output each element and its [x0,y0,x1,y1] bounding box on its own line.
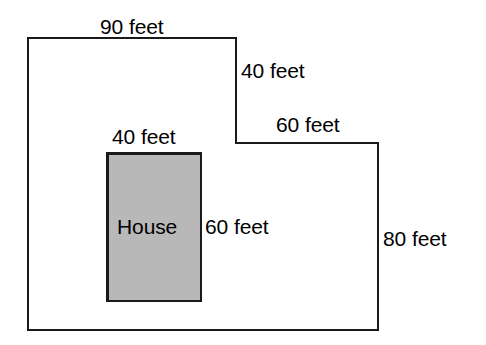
house-name-label: House [117,216,177,237]
yard-right-dimension-label: 80 feet [383,228,447,249]
yard-top-dimension-label: 90 feet [100,16,164,37]
yard-house-figure [0,0,486,345]
diagram-canvas: 90 feet 40 feet 60 feet 80 feet 40 feet … [0,0,486,345]
yard-step-dimension-label: 60 feet [276,114,340,135]
yard-outline-polygon [28,38,378,330]
yard-upper-right-dimension-label: 40 feet [241,60,305,81]
house-right-dimension-label: 60 feet [205,216,269,237]
house-top-dimension-label: 40 feet [112,126,176,147]
